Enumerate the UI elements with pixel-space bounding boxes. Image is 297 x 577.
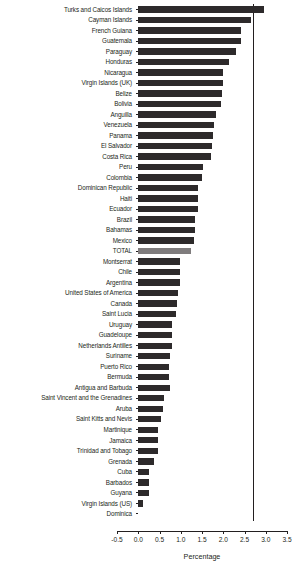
bar	[138, 195, 198, 201]
bar	[138, 490, 149, 496]
bar	[138, 122, 214, 128]
bar	[138, 279, 180, 285]
category-label: Antigua and Barbuda	[0, 384, 132, 391]
category-label: Puerto Rico	[0, 363, 132, 370]
bar	[138, 27, 241, 33]
bar	[138, 90, 222, 96]
bar	[138, 174, 202, 180]
bar	[138, 258, 180, 264]
plot-area	[117, 4, 287, 519]
bar	[138, 385, 169, 391]
x-axis-tick	[266, 531, 267, 534]
category-label: Costa Rica	[0, 153, 132, 160]
category-label: Bahamas	[0, 226, 132, 233]
bar	[138, 332, 172, 338]
bar	[138, 206, 198, 212]
category-label: Guatemala	[0, 37, 132, 44]
bar	[138, 353, 170, 359]
category-label: Trinidad and Tobago	[0, 447, 132, 454]
bar	[138, 321, 172, 327]
category-label: Martinique	[0, 426, 132, 433]
bar	[138, 17, 251, 23]
bar-chart: Turks and Caicos IslandsCayman IslandsFr…	[0, 0, 297, 577]
x-axis-tick	[117, 531, 118, 534]
category-label: Saint Lucia	[0, 310, 132, 317]
category-label: Ecuador	[0, 205, 132, 212]
category-label: Netherlands Antilles	[0, 342, 132, 349]
bar	[138, 111, 215, 117]
x-axis-tick-label: 3.5	[275, 536, 297, 544]
bar	[138, 406, 163, 412]
category-label: French Guiana	[0, 27, 132, 34]
category-label: Grenada	[0, 458, 132, 465]
bar	[138, 395, 164, 401]
x-axis-tick	[245, 531, 246, 534]
category-label: Venezuela	[0, 121, 132, 128]
bar	[138, 427, 158, 433]
category-label: Belize	[0, 90, 132, 97]
category-tick	[136, 513, 138, 514]
category-label: Barbados	[0, 479, 132, 486]
bar	[138, 48, 236, 54]
x-axis-tick	[138, 531, 139, 534]
bar	[138, 448, 158, 454]
bar	[138, 101, 221, 107]
bar	[138, 69, 223, 75]
bar	[138, 38, 241, 44]
category-label: Peru	[0, 163, 132, 170]
category-label: Bermuda	[0, 373, 132, 380]
bar	[138, 216, 195, 222]
category-label: Aruba	[0, 405, 132, 412]
bar	[138, 290, 178, 296]
category-label: Cayman Islands	[0, 16, 132, 23]
category-label: Virgin Islands (UK)	[0, 79, 132, 86]
category-label: Canada	[0, 300, 132, 307]
bar	[138, 311, 175, 317]
category-label: Dominican Republic	[0, 184, 132, 191]
category-label: Paraguay	[0, 48, 132, 55]
category-label: Colombia	[0, 174, 132, 181]
bar	[138, 227, 195, 233]
category-label: Nicaragua	[0, 69, 132, 76]
bar	[138, 469, 149, 475]
category-label: Uruguay	[0, 321, 132, 328]
category-label-column: Turks and Caicos IslandsCayman IslandsFr…	[0, 4, 135, 519]
category-label: Haiti	[0, 195, 132, 202]
bar	[138, 185, 198, 191]
bar	[138, 153, 211, 159]
bar	[138, 59, 229, 65]
bar	[138, 237, 193, 243]
category-label: Jamaica	[0, 437, 132, 444]
x-axis-tick	[181, 531, 182, 534]
category-label: Virgin Islands (US)	[0, 500, 132, 507]
bar	[138, 343, 172, 349]
category-label: Brazil	[0, 216, 132, 223]
category-label: Cuba	[0, 468, 132, 475]
bar	[138, 416, 161, 422]
x-axis-tick	[160, 531, 161, 534]
bar	[138, 6, 263, 12]
category-label: Guadeloupe	[0, 331, 132, 338]
category-label: Anguilla	[0, 111, 132, 118]
bar	[138, 437, 158, 443]
bar	[138, 143, 212, 149]
category-label: Chile	[0, 268, 132, 275]
category-label: Honduras	[0, 58, 132, 65]
bar	[138, 132, 213, 138]
category-label: Turks and Caicos Islands	[0, 6, 132, 13]
category-label: El Salvador	[0, 142, 132, 149]
bar	[138, 248, 191, 254]
bar	[138, 458, 153, 464]
bar	[138, 364, 169, 370]
bar-row	[117, 508, 287, 519]
category-label: Suriname	[0, 352, 132, 359]
x-axis-tick	[202, 531, 203, 534]
bar	[138, 300, 177, 306]
category-label: TOTAL	[0, 247, 132, 254]
category-label: Bolivia	[0, 100, 132, 107]
bar	[138, 80, 223, 86]
category-label: Saint Kitts and Nevis	[0, 415, 132, 422]
category-label: Montserrat	[0, 258, 132, 265]
category-label: Saint Vincent and the Grenadines	[0, 394, 132, 401]
bar	[138, 269, 180, 275]
